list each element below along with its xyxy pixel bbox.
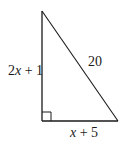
right-triangle-diagram: 2x + 1 20 x + 5 — [0, 0, 126, 141]
triangle — [42, 11, 118, 121]
left-leg-label: 2x + 1 — [8, 63, 43, 78]
hypotenuse — [42, 11, 118, 121]
right-angle-marker — [42, 112, 51, 121]
bottom-leg-label: x + 5 — [69, 125, 98, 140]
hypotenuse-label: 20 — [88, 54, 102, 69]
